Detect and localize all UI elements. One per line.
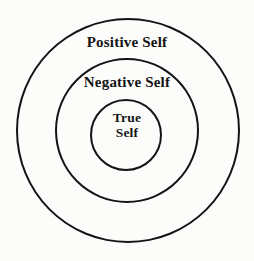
inner-ring-label-line1: True xyxy=(113,110,141,125)
inner-ring-label-line2: Self xyxy=(116,125,139,140)
outer-ring-label: Positive Self xyxy=(0,34,254,50)
concentric-self-diagram: Positive Self Negative Self True Self xyxy=(0,0,254,261)
middle-ring-label: Negative Self xyxy=(0,74,254,90)
inner-ring-label: True Self xyxy=(0,111,254,140)
